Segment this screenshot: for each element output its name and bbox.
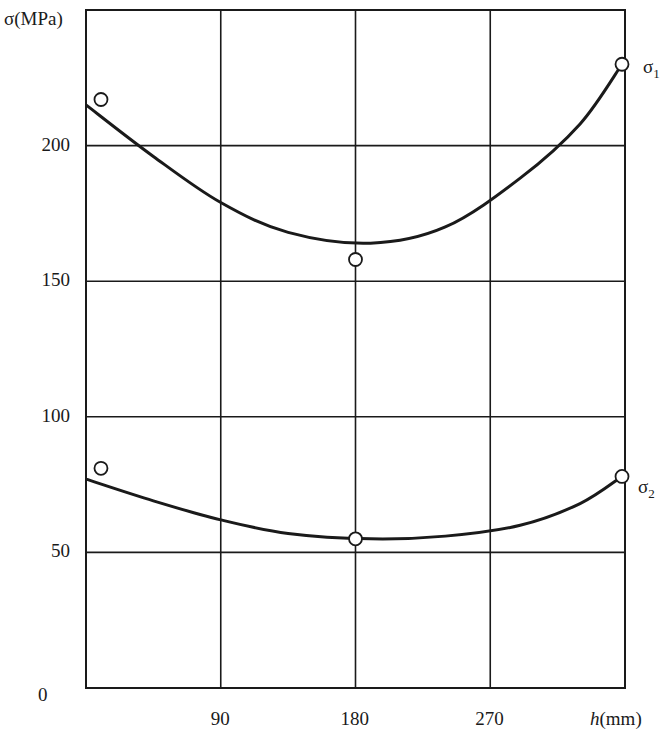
y-axis-title: σ(MPa) bbox=[4, 8, 63, 29]
legend-sigma1: σ1 bbox=[643, 56, 660, 82]
data-point-sigma2 bbox=[94, 462, 107, 475]
data-point-sigma1 bbox=[94, 93, 107, 106]
data-point-sigma2 bbox=[616, 470, 629, 483]
y-tick-label: 200 bbox=[10, 134, 70, 156]
x-tick-label: 270 bbox=[475, 708, 504, 730]
y-tick-label: 50 bbox=[10, 540, 70, 562]
x-tick-label: 180 bbox=[341, 708, 370, 730]
data-point-sigma1 bbox=[616, 58, 629, 71]
y-tick-label: 0 bbox=[38, 684, 74, 706]
data-point-sigma1 bbox=[349, 253, 362, 266]
sigma2-symbol: σ bbox=[638, 476, 648, 497]
x-axis-label: h(mm) bbox=[590, 708, 642, 730]
x-tick-label: 90 bbox=[211, 708, 230, 730]
sigma2-subscript: 2 bbox=[648, 486, 655, 501]
fit-curve-sigma1 bbox=[86, 64, 622, 243]
sigma1-subscript: 1 bbox=[653, 66, 660, 81]
x-axis-variable: h bbox=[590, 708, 600, 729]
x-axis-unit: (mm) bbox=[600, 708, 642, 729]
y-tick-label: 100 bbox=[10, 405, 70, 427]
chart-canvas bbox=[0, 0, 671, 750]
legend-sigma2: σ2 bbox=[638, 476, 655, 502]
fit-curve-sigma2 bbox=[86, 476, 622, 538]
y-axis-label: σ(MPa) bbox=[4, 8, 63, 30]
data-point-sigma2 bbox=[349, 532, 362, 545]
sigma1-symbol: σ bbox=[643, 56, 653, 77]
y-tick-label: 150 bbox=[10, 269, 70, 291]
